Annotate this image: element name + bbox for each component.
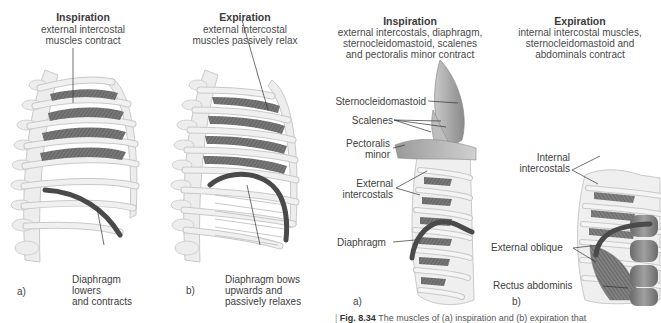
- ribcage-expiration-lateral: [171, 20, 297, 262]
- sternocleidomastoid-label: Sternocleidomastoid: [318, 96, 426, 107]
- subtitle-line: sternocleidomastoid, scalenes: [320, 38, 500, 49]
- pectoralis-minor-muscle: [395, 139, 476, 160]
- rectus-abdominis-muscle: [630, 215, 658, 306]
- panel-a-left-subtitle: external intercostal muscles contract: [18, 24, 148, 46]
- subtitle-line: muscles passively relax: [175, 35, 315, 46]
- panel-a-right-subtitle: external intercostals, diaphragm, sterno…: [320, 27, 500, 60]
- panel-letter-b: b): [186, 285, 195, 296]
- label-line: External: [325, 178, 393, 189]
- subtitle-line: external intercostal: [175, 24, 315, 35]
- subtitle-line: external intercostals, diaphragm,: [320, 27, 500, 38]
- panel-a-right-title: Inspiration: [355, 15, 465, 27]
- label-line: passively relaxes: [225, 296, 301, 307]
- subtitle-line: external intercostal: [18, 24, 148, 35]
- panel-letter-a: a): [17, 286, 26, 297]
- diaphragm-label: Diaphragm: [337, 237, 386, 248]
- panel-b-right-title: Expiration: [525, 15, 635, 27]
- label-line: lowers: [72, 285, 132, 296]
- panel-a-left-title: Inspiration: [28, 11, 138, 23]
- subtitle-line: abdominals contract: [500, 49, 660, 60]
- diaphragm-bows-label: Diaphragm bows upwards and passively rel…: [225, 274, 301, 307]
- subtitle-line: and pectoralis minor contract: [320, 49, 500, 60]
- external-intercostals-label: External intercostals: [325, 178, 393, 200]
- ribcage-inspiration-lateral: [11, 48, 137, 262]
- label-line: Diaphragm bows: [225, 274, 301, 285]
- label-line: Pectoralis: [330, 138, 390, 149]
- label-line: upwards and: [225, 285, 301, 296]
- subtitle-line: sternocleidomastoid and: [500, 38, 660, 49]
- label-line: and contracts: [72, 296, 132, 307]
- external-oblique-label: External oblique: [491, 242, 563, 253]
- panel-b-left-title: Expiration: [190, 11, 300, 23]
- label-line: minor: [330, 149, 390, 160]
- internal-intercostals-label: Internal intercostals: [510, 152, 570, 174]
- subtitle-line: internal intercostal muscles,: [500, 27, 660, 38]
- figure-caption: | Fig. 8.34 The muscles of (a) inspirati…: [335, 313, 586, 323]
- pectoralis-minor-label: Pectoralis minor: [330, 138, 390, 160]
- rectus-abdominis-label: Rectus abdominis: [493, 280, 572, 291]
- caption-text: The muscles of (a) inspiration and (b) e…: [378, 313, 586, 323]
- label-line: Internal: [510, 152, 570, 163]
- panel-b-right-subtitle: internal intercostal muscles, sternoclei…: [500, 27, 660, 60]
- panel-letter-b: b): [512, 296, 521, 307]
- label-line: intercostals: [325, 189, 393, 200]
- panel-letter-a: a): [353, 296, 362, 307]
- subtitle-line: muscles contract: [18, 35, 148, 46]
- figure-number: Fig. 8.34: [340, 313, 376, 323]
- diaphragm-lowers-label: Diaphragm lowers and contracts: [72, 274, 132, 307]
- scalenes-label: Scalenes: [330, 115, 393, 126]
- label-line: intercostals: [510, 163, 570, 174]
- ribcage-expiration-muscles: [572, 156, 660, 306]
- label-line: Diaphragm: [72, 274, 132, 285]
- panel-b-left-subtitle: external intercostal muscles passively r…: [175, 24, 315, 46]
- diaphragm: [210, 174, 287, 240]
